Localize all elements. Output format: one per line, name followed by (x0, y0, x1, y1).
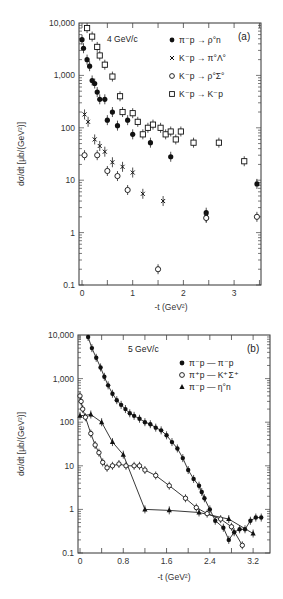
data-point (148, 420, 152, 428)
data-point (191, 138, 196, 148)
data-point (117, 460, 121, 468)
data-point (105, 115, 110, 125)
x-tick-label: 1.6 (161, 556, 173, 566)
data-point (132, 412, 136, 420)
panel-b-data-points (77, 335, 263, 550)
fit-curve (88, 337, 261, 540)
x-tick-label: 0.8 (117, 556, 129, 566)
data-point (154, 471, 158, 479)
data-point (242, 156, 247, 166)
data-point (82, 150, 87, 160)
y-tick-label: 0.1 (62, 548, 74, 558)
data-point (83, 109, 87, 119)
x-tick-label: 2 (181, 288, 186, 298)
x-tick-label: 3.2 (247, 556, 259, 566)
data-point (95, 42, 100, 52)
y-tick-label: 100 (60, 417, 74, 427)
data-point (90, 32, 95, 42)
data-point (159, 426, 163, 434)
y-tick-label: 10,000 (49, 18, 75, 28)
data-point (110, 157, 114, 167)
data-point (93, 134, 97, 144)
panel-a-chart: 10,0001,0001001010.1 0123 4 GeV/c (a) π⁻… (16, 18, 261, 312)
legend-label: π⁺p — K⁺Σ⁺ (189, 370, 239, 380)
data-point (130, 108, 135, 118)
legend-item: K⁻p → ρ°Σ° (170, 71, 225, 81)
data-point (140, 129, 145, 139)
data-point (145, 123, 150, 133)
data-point (167, 482, 171, 490)
panel-b-chart: 10,0001,0001001010.1 00.81.62.43.2 5 GeV… (16, 330, 270, 582)
legend-item: π⁺p — K⁺Σ⁺ (180, 370, 239, 380)
data-point (163, 129, 168, 139)
data-point (218, 515, 222, 523)
data-point (143, 466, 147, 474)
data-point (97, 50, 102, 60)
data-point (125, 185, 130, 195)
data-point (183, 494, 187, 502)
data-point (84, 55, 89, 65)
data-point (83, 413, 87, 421)
panel-a-legend: π⁻p → ρ°nK⁻p → π°Λ°K⁻p → ρ°Σ°K⁻p → K⁻p (170, 35, 226, 99)
data-point (168, 126, 173, 136)
panel-b-y-tick-labels: 10,0001,0001001010.1 (48, 330, 74, 558)
data-point (125, 115, 130, 125)
data-point (123, 405, 127, 413)
y-tick-label: 1 (69, 504, 74, 514)
data-point (84, 23, 89, 33)
x-tick-label: 0 (80, 288, 85, 298)
x-tick-label: 3 (232, 288, 237, 298)
data-point (81, 405, 85, 413)
data-point (132, 462, 136, 470)
legend-label: K⁻p → π°Λ° (179, 53, 226, 63)
data-point (141, 189, 145, 199)
x-tick-label: 2.4 (204, 556, 216, 566)
panel-a-energy-label: 4 GeV/c (107, 34, 138, 44)
figure: 10,0001,0001001010.1 0123 4 GeV/c (a) π⁻… (0, 0, 283, 599)
y-tick-label: 0.1 (63, 280, 75, 290)
panel-a-label: (a) (238, 31, 250, 42)
panel-b-energy-label: 5 GeV/c (128, 344, 159, 354)
data-point (168, 152, 173, 162)
data-point (158, 123, 163, 133)
x-tick-label: 1 (130, 288, 135, 298)
data-point (110, 107, 115, 117)
data-point (128, 409, 132, 417)
data-point (121, 162, 125, 172)
data-point (137, 462, 141, 470)
data-point (81, 43, 86, 53)
data-point (161, 196, 165, 206)
data-point (115, 171, 120, 181)
data-point (254, 212, 259, 222)
y-tick-label: 1 (70, 228, 75, 238)
legend-label: π⁻p → ρ°n (179, 35, 221, 45)
data-point (170, 438, 174, 446)
legend-item: π⁻p — π⁻p (180, 358, 234, 368)
panel-a-data-points (79, 23, 259, 274)
data-point (194, 504, 198, 512)
data-point (155, 264, 160, 274)
data-point (131, 168, 135, 178)
data-point (124, 462, 128, 470)
y-tick-label: 100 (61, 123, 75, 133)
data-point (216, 138, 221, 148)
data-point (173, 134, 178, 144)
x-tick-label: 0 (78, 556, 83, 566)
legend-label: π⁻p — π⁻p (189, 358, 234, 368)
data-point (110, 462, 114, 470)
panel-a-y-axis-title: dσ/dt [μb/(GeV²)] (16, 122, 26, 186)
data-point (150, 120, 155, 130)
data-point (79, 35, 84, 45)
data-point (259, 514, 263, 522)
data-point (119, 401, 123, 409)
legend-item: π⁻p — η°n (179, 382, 231, 392)
data-point (120, 107, 125, 117)
data-point (164, 431, 168, 439)
data-point (135, 117, 140, 127)
legend-label: K⁻p → K⁻p (179, 89, 223, 99)
legend-item: K⁻p → K⁻p (170, 89, 224, 99)
panel-a-y-tick-labels: 10,0001,0001001010.1 (49, 18, 75, 290)
y-tick-label: 10 (66, 175, 76, 185)
y-tick-label: 1,000 (53, 374, 75, 384)
data-point (178, 126, 183, 136)
